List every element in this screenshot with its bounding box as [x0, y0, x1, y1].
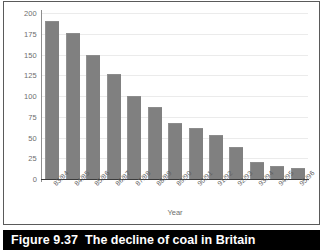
y-axis-tick-labels: 0255075100125150175200: [4, 13, 37, 179]
bar-slot: [247, 13, 267, 179]
bar-slot: [226, 13, 246, 179]
figure-number: Figure 9.37: [11, 233, 78, 247]
figure-caption-bar: Figure 9.37 The decline of coal in Brita…: [3, 230, 320, 250]
bar-series: [42, 13, 308, 179]
y-axis-tick-label: 25: [28, 154, 37, 163]
bar: [127, 96, 141, 179]
chart-frame: 0255075100125150175200 83/8484/8585/8686…: [3, 1, 320, 225]
bar: [45, 21, 59, 179]
bar-slot: [185, 13, 205, 179]
y-axis-tick-label: 125: [24, 71, 37, 80]
bar-slot: [144, 13, 164, 179]
bar-slot: [124, 13, 144, 179]
y-axis-tick-label: 175: [24, 29, 37, 38]
bar-slot: [206, 13, 226, 179]
bar-slot: [62, 13, 82, 179]
x-axis-title: Year: [42, 208, 308, 217]
y-axis-tick-label: 75: [28, 112, 37, 121]
bar-slot: [288, 13, 308, 179]
bar-chart: 0255075100125150175200 83/8484/8585/8686…: [4, 2, 319, 224]
bar-slot: [165, 13, 185, 179]
bar-slot: [42, 13, 62, 179]
y-axis-tick-label: 50: [28, 133, 37, 142]
bar: [86, 55, 100, 180]
bar-slot: [83, 13, 103, 179]
figure-container: 0255075100125150175200 83/8484/8585/8686…: [0, 0, 324, 252]
y-axis-tick-label: 200: [24, 9, 37, 18]
bar-slot: [103, 13, 123, 179]
y-axis-tick-label: 150: [24, 50, 37, 59]
bar: [148, 107, 162, 179]
figure-title: The decline of coal in Britain: [85, 233, 255, 247]
bar: [107, 74, 121, 179]
plot-area: [42, 13, 308, 179]
y-axis-tick-label: 0: [33, 175, 37, 184]
bar: [168, 123, 182, 179]
bar: [66, 33, 80, 179]
y-axis-tick-label: 100: [24, 92, 37, 101]
bar-slot: [267, 13, 287, 179]
